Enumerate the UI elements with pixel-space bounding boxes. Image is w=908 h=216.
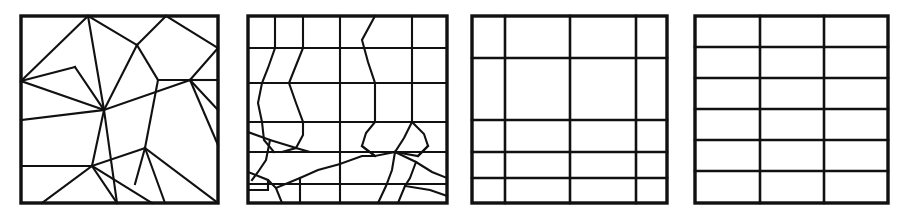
mesh-figure: [0, 0, 908, 216]
mesh-edge: [258, 16, 275, 122]
panel-4-uniform-grid: [695, 16, 888, 203]
mesh-edge: [21, 110, 104, 120]
panel-1-unstructured-mesh: [21, 16, 218, 203]
mesh-edge: [92, 110, 104, 166]
mesh-edge: [92, 166, 152, 203]
mesh-edge: [405, 186, 447, 196]
mesh-edge: [21, 81, 104, 110]
mesh-edge: [137, 45, 158, 80]
panel-2-border: [248, 16, 447, 203]
mesh-edge: [340, 156, 375, 164]
mesh-edge: [412, 122, 428, 156]
mesh-edge: [190, 48, 218, 80]
mesh-edge: [190, 80, 218, 145]
mesh-edge: [395, 122, 412, 152]
mesh-canvas: [0, 0, 908, 216]
mesh-edge: [166, 16, 218, 48]
mesh-edge: [395, 152, 447, 178]
mesh-edge: [137, 16, 166, 45]
mesh-edge: [104, 110, 117, 203]
mesh-edge: [88, 16, 137, 45]
mesh-edge: [135, 148, 145, 184]
mesh-edge: [289, 16, 303, 122]
mesh-edge: [42, 166, 92, 203]
panel-1-edges: [21, 16, 218, 203]
panel-3-nonuniform-grid: [472, 16, 667, 203]
panel-2-polygonal-mesh: [248, 16, 447, 203]
mesh-edge: [248, 132, 296, 148]
mesh-edge: [92, 148, 145, 166]
mesh-edge: [88, 16, 104, 110]
mesh-edge: [190, 80, 218, 110]
panel-2-edges: [248, 16, 447, 203]
panel-1-border: [21, 16, 218, 203]
mesh-edge: [145, 80, 158, 148]
panel-4-edges: [695, 16, 888, 203]
mesh-edge: [398, 162, 416, 203]
panel-3-edges: [472, 16, 667, 203]
mesh-edge: [378, 152, 395, 203]
mesh-edge: [362, 16, 375, 122]
